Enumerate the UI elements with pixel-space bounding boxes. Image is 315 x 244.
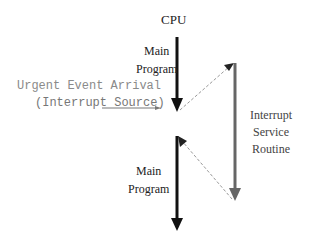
program-label-line: Program <box>136 63 177 77</box>
isr-label-line-1: Interrupt <box>250 109 292 123</box>
cpu-label: CPU <box>161 13 186 28</box>
main-program-label-bottom: Main Program <box>128 165 169 197</box>
program-label-line: Program <box>128 183 169 197</box>
main-program-label-top: Main Program <box>136 45 177 77</box>
dashed-return-from-isr <box>178 136 232 199</box>
isr-arrow <box>229 63 241 201</box>
main-program-arrow-bottom <box>171 136 183 231</box>
isr-label: Interrupt Service Routine <box>250 109 292 156</box>
isr-label-line-2: Service <box>250 126 292 140</box>
dashed-jump-to-isr <box>180 63 234 110</box>
main-label-line: Main <box>136 45 177 59</box>
event-label: Urgent Event Arrival <box>17 80 161 94</box>
main-label-line: Main <box>128 165 169 179</box>
isr-label-line-3: Routine <box>250 143 292 157</box>
interrupt-diagram: CPU Main Program Urgent Event Arrival (I… <box>0 0 315 244</box>
event-sublabel: (Interrupt Source) <box>35 97 165 111</box>
